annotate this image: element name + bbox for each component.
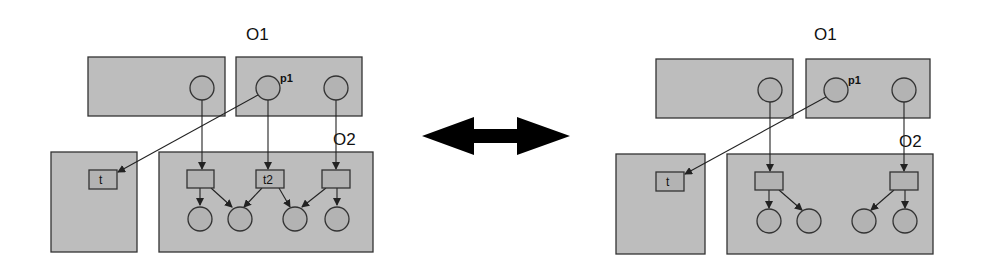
left-p1-label: p1 (280, 72, 293, 84)
right-bottom-place-4 (893, 209, 917, 233)
right-bottom-place-3 (852, 209, 876, 233)
right-place-a (758, 78, 782, 102)
left-transition-t (89, 170, 117, 189)
left-bottom-place-2 (228, 207, 252, 231)
right-o2-label: O2 (899, 132, 922, 151)
right-transition-t (656, 172, 684, 191)
left-bottom-place-1 (188, 207, 212, 231)
left-bottom-place-4 (325, 207, 349, 231)
right-transition-1 (755, 172, 783, 190)
left-t2-label: t2 (263, 173, 273, 187)
left-transition-3 (322, 170, 350, 188)
left-bottom-place-3 (283, 207, 307, 231)
right-p1-label: p1 (848, 74, 861, 86)
right-bottom-left-box (616, 154, 705, 254)
bidirectional-arrow-icon (422, 117, 570, 155)
left-net: O1 O2 p1 t t2 (51, 25, 373, 252)
left-bottom-left-box (51, 152, 137, 252)
right-net: O1 O2 p1 t (616, 25, 933, 254)
diagram-canvas: O1 O2 p1 t t2 (0, 0, 983, 278)
left-place-p1 (256, 76, 280, 100)
right-transition-2 (890, 172, 918, 190)
left-o2-box (159, 152, 373, 252)
left-place-a (190, 76, 214, 100)
right-place-c (892, 78, 916, 102)
right-place-p1 (824, 78, 848, 102)
left-place-c (324, 76, 348, 100)
left-transition-1 (187, 170, 214, 188)
right-bottom-place-1 (757, 209, 781, 233)
right-o2-box (727, 154, 933, 254)
left-o1-label: O1 (246, 25, 269, 44)
right-o1-label: O1 (814, 25, 837, 44)
right-bottom-place-2 (797, 209, 821, 233)
